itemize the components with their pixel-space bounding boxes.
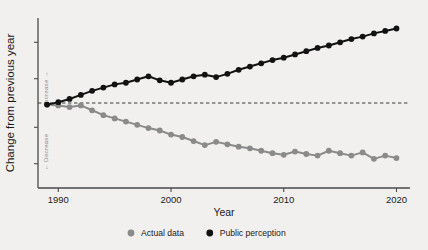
data-point xyxy=(224,141,230,147)
data-point xyxy=(326,43,332,49)
data-point xyxy=(303,48,309,54)
data-point xyxy=(247,145,253,151)
data-point xyxy=(55,99,61,105)
data-point xyxy=(303,151,309,157)
x-tick-label-2000: 2000 xyxy=(160,194,181,205)
data-point xyxy=(337,150,343,156)
data-point xyxy=(394,26,400,32)
data-point xyxy=(100,112,106,118)
data-point xyxy=(258,148,264,154)
data-point xyxy=(100,85,106,91)
x-tick-label-1990: 1990 xyxy=(48,194,69,205)
data-point xyxy=(213,139,219,145)
data-point xyxy=(202,142,208,148)
data-point xyxy=(134,122,140,128)
data-point xyxy=(348,36,354,42)
chart-canvas: 1990200020102020 Change from previous ye… xyxy=(0,0,428,250)
legend-marker-public-perception xyxy=(206,230,213,237)
data-point xyxy=(191,73,197,79)
data-point xyxy=(146,125,152,131)
data-point xyxy=(360,34,366,40)
legend-label-public-perception: Public perception xyxy=(220,228,286,238)
data-point xyxy=(123,80,129,86)
data-point xyxy=(202,72,208,78)
data-point xyxy=(270,57,276,63)
x-axis-label: Year xyxy=(213,206,235,218)
data-point xyxy=(224,71,230,77)
data-point xyxy=(292,52,298,58)
data-point xyxy=(371,156,377,162)
decrease-annotation: ← Decrease xyxy=(42,133,49,170)
data-point xyxy=(337,39,343,45)
data-point xyxy=(179,77,185,83)
increase-annotation: Increase → xyxy=(42,71,49,105)
data-point xyxy=(44,102,50,108)
data-point xyxy=(382,153,388,159)
chart-figure: 1990200020102020 Change from previous ye… xyxy=(0,0,428,250)
data-point xyxy=(157,77,163,83)
data-point xyxy=(179,134,185,140)
data-point xyxy=(146,73,152,79)
data-point xyxy=(292,149,298,155)
data-point xyxy=(89,107,95,113)
data-point xyxy=(78,92,84,98)
legend-label-actual-data: Actual data xyxy=(141,228,184,238)
data-point xyxy=(168,80,174,86)
data-point xyxy=(281,55,287,61)
x-tick-label-2020: 2020 xyxy=(386,194,407,205)
data-point xyxy=(382,28,388,34)
data-point xyxy=(236,67,242,73)
data-point xyxy=(360,149,366,155)
x-tick-label-2010: 2010 xyxy=(273,194,294,205)
data-point xyxy=(270,150,276,156)
data-point xyxy=(67,96,73,102)
data-point xyxy=(315,45,321,51)
data-point xyxy=(112,81,118,87)
data-point xyxy=(236,144,242,150)
data-point xyxy=(78,103,84,109)
y-axis-label: Change from previous year xyxy=(4,33,16,172)
legend-marker-actual-data xyxy=(128,230,135,237)
data-point xyxy=(157,128,163,134)
data-point xyxy=(191,138,197,144)
data-point xyxy=(123,119,129,125)
data-point xyxy=(247,64,253,70)
data-point xyxy=(67,104,73,110)
data-point xyxy=(168,132,174,138)
data-point xyxy=(326,148,332,154)
data-point xyxy=(258,60,264,66)
data-point xyxy=(213,74,219,80)
data-point xyxy=(371,30,377,36)
data-point xyxy=(348,153,354,159)
data-point xyxy=(89,88,95,94)
data-point xyxy=(134,77,140,83)
data-point xyxy=(281,152,287,158)
data-point xyxy=(315,153,321,159)
data-point xyxy=(112,115,118,121)
data-point xyxy=(394,155,400,161)
